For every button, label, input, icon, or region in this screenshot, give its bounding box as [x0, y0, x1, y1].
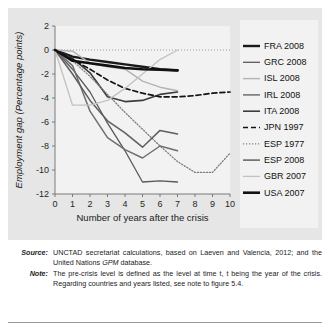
x-axis-tick-label: 10 — [225, 199, 235, 209]
y-axis-tick-label: 2 — [44, 21, 49, 31]
x-axis-tick-label: 3 — [105, 199, 110, 209]
plot-background — [55, 26, 230, 194]
x-axis-tick-label: 6 — [157, 199, 162, 209]
chart-panel: 20-2-4-6-8-10-12012345678910Number of ye… — [8, 8, 322, 240]
chart-legend: FRA 2008GRC 2008ISL 2008IRL 2008ITA 2008… — [240, 20, 318, 228]
caption-source-text-b: database. — [119, 258, 153, 267]
caption-source-text-a: UNCTAD secretariat calculations, based o… — [53, 248, 322, 267]
x-axis-tick-label: 9 — [210, 199, 215, 209]
x-axis-title: Number of years after the crisis — [77, 212, 209, 223]
legend-label: JPN 1997 — [264, 122, 304, 132]
legend-label: IRL 2008 — [264, 90, 300, 100]
y-axis-tick-label: -8 — [41, 141, 49, 151]
figure-container: 20-2-4-6-8-10-12012345678910Number of ye… — [0, 0, 330, 332]
caption-source-row: Source: UNCTAD secretariat calculations,… — [8, 248, 322, 267]
plot-area: 20-2-4-6-8-10-12012345678910Number of ye… — [13, 21, 235, 223]
x-axis-tick-label: 7 — [175, 199, 180, 209]
y-axis-tick-label: -4 — [41, 93, 49, 103]
caption-note-label: Note: — [8, 269, 53, 279]
figure-caption: Source: UNCTAD secretariat calculations,… — [8, 248, 322, 291]
legend-label: ITA 2008 — [264, 106, 299, 116]
legend-label: ESP 2008 — [264, 155, 304, 165]
x-axis-tick-label: 8 — [192, 199, 197, 209]
y-axis-tick-label: -2 — [41, 69, 49, 79]
x-axis-tick-label: 2 — [87, 199, 92, 209]
legend-label: FRA 2008 — [264, 41, 304, 51]
legend-label: GRC 2008 — [264, 57, 307, 67]
figure-top-rule — [8, 2, 322, 3]
x-axis-tick-label: 1 — [70, 199, 75, 209]
y-axis-title: Employment gap (Percentage points) — [13, 32, 24, 189]
figure-bottom-rule — [8, 322, 322, 323]
employment-gap-line-chart: 20-2-4-6-8-10-12012345678910Number of ye… — [8, 8, 322, 240]
legend-label: USA 2007 — [264, 188, 305, 198]
x-axis-tick-label: 5 — [140, 199, 145, 209]
caption-note-row: Note: The pre-crisis level is defined as… — [8, 269, 322, 288]
x-axis-tick-label: 4 — [122, 199, 127, 209]
caption-source-text: UNCTAD secretariat calculations, based o… — [53, 248, 322, 267]
y-axis-tick-label: 0 — [44, 45, 49, 55]
legend-label: ISL 2008 — [264, 73, 300, 83]
caption-source-gpm: GPM — [102, 258, 118, 267]
y-axis-tick-label: -12 — [36, 189, 49, 199]
legend-label: GBR 2007 — [264, 171, 306, 181]
y-axis-tick-label: -10 — [36, 165, 49, 175]
x-axis-tick-label: 0 — [52, 199, 57, 209]
caption-note-text: The pre-crisis level is defined as the l… — [53, 269, 322, 288]
y-axis-tick-label: -6 — [41, 117, 49, 127]
legend-label: ESP 1977 — [264, 139, 304, 149]
caption-source-label: Source: — [8, 248, 53, 258]
